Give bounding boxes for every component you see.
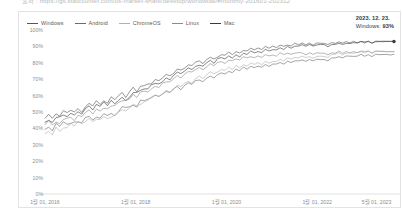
x-axis-tick-label: 5월 01, 2023 [362,198,392,205]
series-line-chromeos[interactable] [45,51,394,135]
x-axis-tick-label: 1월 01, 2022 [302,198,332,205]
y-axis-tick-label: 80% [21,60,43,66]
y-axis: 100%90%80%70%60%50%40%30%20%10%0% [19,12,43,208]
y-axis-tick-label: 10% [21,175,43,181]
x-axis: 1월 01, 20161월 01, 20181월 01, 20201월 01, … [19,194,401,208]
source-caption-text: 출처 : https://gs.statcounter.com/os-marke… [22,0,290,5]
y-axis-tick-label: 40% [21,125,43,131]
y-axis-tick-label: 60% [21,93,43,99]
y-axis-tick-label: 90% [21,43,43,49]
y-axis-tick-label: 20% [21,158,43,164]
line-chart-svg [19,12,401,208]
source-caption-strip: 출처 : https://gs.statcounter.com/os-marke… [0,0,403,11]
y-axis-tick-label: 70% [21,76,43,82]
endpoint-marker-dot[interactable] [392,40,395,43]
y-axis-tick-label: 100% [21,27,43,33]
x-axis-tick-label: 1월 01, 2020 [212,198,242,205]
chart-card: WindowsAndroidChromeOSLinuxMac 2023. 12.… [18,11,401,208]
y-axis-tick-label: 50% [21,109,43,115]
plot-area [19,12,401,208]
y-axis-tick-label: 30% [21,142,43,148]
series-line-mac[interactable] [45,41,394,122]
series-line-linux[interactable] [45,51,394,125]
x-axis-tick-label: 1월 01, 2016 [30,198,60,205]
x-axis-tick-label: 1월 01, 2018 [121,198,151,205]
